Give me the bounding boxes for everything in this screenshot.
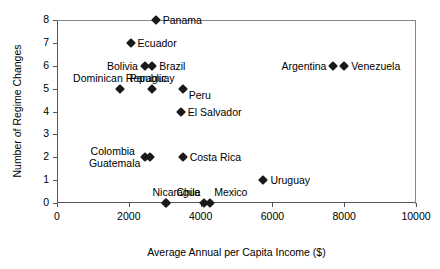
y-tick (53, 134, 57, 135)
y-tick-label: 8 (23, 13, 49, 25)
y-tick (53, 112, 57, 113)
y-tick-label: 6 (23, 59, 49, 71)
x-tick (344, 203, 345, 207)
x-tick-label: 8000 (314, 210, 374, 222)
y-axis-title: Number of Regime Changes (11, 11, 23, 211)
point-label-bolivia: Bolivia (107, 60, 138, 72)
y-tick (53, 66, 57, 67)
y-tick-label: 4 (23, 105, 49, 117)
point-label-argentina: Argentina (281, 60, 326, 72)
y-tick-label: 3 (23, 127, 49, 139)
y-tick-label: 0 (23, 196, 49, 208)
x-tick-label: 10000 (386, 210, 440, 222)
x-tick (129, 203, 130, 207)
y-tick-label: 5 (23, 82, 49, 94)
x-tick-label: 0 (27, 210, 87, 222)
plot-top-border (57, 20, 416, 21)
y-tick (53, 89, 57, 90)
point-label-guatemala: Guatemala (89, 157, 140, 169)
point-label-el-salvador: El Salvador (188, 106, 242, 118)
y-tick-label: 1 (23, 173, 49, 185)
y-tick (53, 157, 57, 158)
plot-right-border (415, 20, 416, 204)
y-tick-label: 7 (23, 36, 49, 48)
scatter-chart: Number of Regime Changes Average Annual … (0, 0, 440, 269)
y-tick (53, 20, 57, 21)
x-tick-label: 6000 (242, 210, 302, 222)
point-label-paraguay: Paraguay (130, 72, 175, 84)
point-label-ecuador: Ecuador (138, 37, 177, 49)
x-tick (416, 203, 417, 207)
y-tick (53, 43, 57, 44)
point-label-chile: Chile (176, 186, 200, 198)
x-tick-label: 2000 (99, 210, 159, 222)
x-tick-label: 4000 (171, 210, 231, 222)
point-label-mexico: Mexico (214, 186, 247, 198)
x-tick (57, 203, 58, 207)
point-label-panama: Panama (163, 14, 202, 26)
point-label-peru: Peru (189, 89, 211, 101)
y-tick (53, 180, 57, 181)
point-label-brazil: Brazil (159, 60, 185, 72)
y-tick-label: 2 (23, 150, 49, 162)
x-axis-title: Average Annual per Capita Income ($) (57, 246, 416, 258)
x-tick (272, 203, 273, 207)
point-label-costa-rica: Costa Rica (190, 151, 241, 163)
point-label-uruguay: Uruguay (270, 174, 310, 186)
point-label-colombia: Colombia (91, 145, 135, 157)
point-label-venezuela: Venezuela (351, 60, 400, 72)
